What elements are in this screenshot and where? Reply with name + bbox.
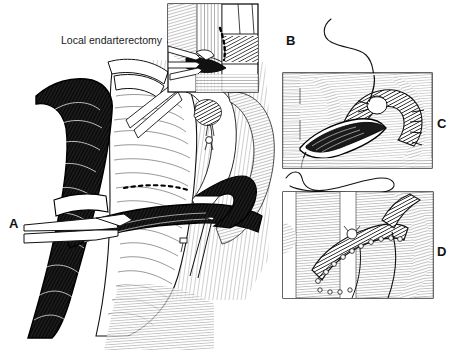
panel-d-artwork [283, 192, 433, 298]
panel-d-detail [283, 192, 433, 298]
figure-artwork [0, 0, 460, 350]
caption-local-endarterectomy: Local endarterectomy [61, 35, 162, 47]
panel-label-c: C [437, 117, 447, 130]
surgical-figure: Local endarterectomy A B C D [0, 0, 460, 350]
panel-label-d: D [437, 245, 447, 258]
panel-c-artwork [283, 73, 432, 176]
panel-b-inset [168, 4, 258, 92]
panel-label-b: B [286, 34, 296, 47]
panel-c-detail [283, 73, 432, 176]
panel-label-a: A [9, 217, 19, 230]
